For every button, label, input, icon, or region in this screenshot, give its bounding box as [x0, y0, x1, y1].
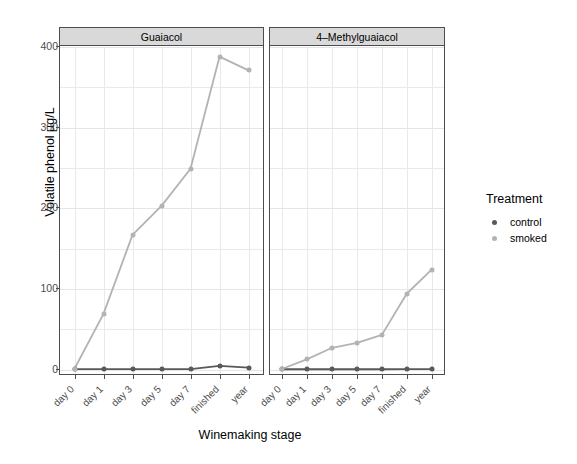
legend-key [486, 214, 502, 230]
legend-dot-icon [492, 236, 497, 241]
x-tick-mark [282, 375, 283, 379]
x-tick-mark [162, 375, 163, 379]
legend-title: Treatment [486, 192, 576, 206]
data-point [188, 367, 193, 372]
plot-area [60, 47, 263, 374]
x-tick-mark [307, 375, 308, 379]
x-tick-mark [382, 375, 383, 379]
data-point [188, 166, 193, 171]
data-point [159, 203, 164, 208]
series-line-smoked [282, 270, 431, 369]
y-tick-label: 400 [24, 40, 58, 52]
legend-entry[interactable]: control [486, 214, 576, 230]
series-lines [270, 47, 444, 374]
x-tick-mark [249, 375, 250, 379]
data-point [355, 367, 360, 372]
data-point [429, 267, 434, 272]
x-axis-title: Winemaking stage [60, 428, 440, 442]
data-point [101, 367, 106, 372]
data-point [72, 366, 77, 371]
y-tick-label: 300 [24, 121, 58, 133]
legend: Treatment controlsmoked [486, 192, 576, 246]
legend-entries: controlsmoked [486, 214, 576, 246]
data-point [404, 367, 409, 372]
facet-strip-label: 4–Methylguaiacol [270, 28, 444, 46]
legend-key [486, 230, 502, 246]
data-point [330, 345, 335, 350]
x-tick-mark [332, 375, 333, 379]
series-lines [60, 47, 263, 374]
x-tick-mark [75, 375, 76, 379]
x-tick-mark [191, 375, 192, 379]
data-point [217, 363, 222, 368]
data-point [330, 367, 335, 372]
facet-panel: Guaiacol [59, 27, 264, 375]
data-point [101, 311, 106, 316]
y-axis-ticks: 0100200300400 [0, 0, 58, 464]
data-point [159, 367, 164, 372]
y-tick-label: 200 [24, 201, 58, 213]
data-point [130, 367, 135, 372]
x-tick-mark [220, 375, 221, 379]
legend-dot-icon [492, 220, 497, 225]
x-tick-mark [133, 375, 134, 379]
x-tick-mark [432, 375, 433, 379]
facet-panel: 4–Methylguaiacol [269, 27, 445, 375]
data-point [280, 366, 285, 371]
data-point [246, 68, 251, 73]
plot-area [270, 47, 444, 374]
data-point [305, 357, 310, 362]
data-point [404, 291, 409, 296]
data-point [379, 332, 384, 337]
legend-label: control [510, 216, 542, 228]
data-point [130, 232, 135, 237]
data-point [305, 367, 310, 372]
data-point [429, 367, 434, 372]
data-point [246, 365, 251, 370]
x-tick-mark [407, 375, 408, 379]
data-point [355, 340, 360, 345]
data-point [379, 367, 384, 372]
legend-entry[interactable]: smoked [486, 230, 576, 246]
legend-label: smoked [510, 232, 547, 244]
x-tick-mark [357, 375, 358, 379]
x-tick-mark [104, 375, 105, 379]
y-tick-label: 0 [24, 363, 58, 375]
chart-root: Volatile phenol µg/L 0100200300400 Guaia… [0, 0, 577, 464]
facet-strip-label: Guaiacol [60, 28, 263, 46]
series-line-smoked [75, 57, 249, 369]
data-point [217, 54, 222, 59]
y-tick-label: 100 [24, 282, 58, 294]
